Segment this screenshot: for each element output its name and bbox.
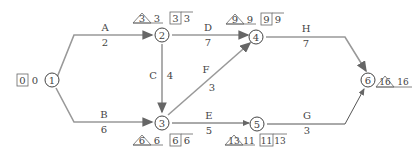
node-4-box1: 9 [263, 14, 269, 25]
node-5-tri: 13 [228, 136, 240, 146]
node-3-box1: 6 [172, 135, 178, 146]
activity-H-arrow [266, 37, 366, 71]
node-1-est: 0 [19, 75, 25, 86]
node-2-box1: 3 [172, 13, 178, 24]
activity-E-name: E [205, 110, 212, 121]
node-2: 2 3 3 3 3 [133, 12, 193, 42]
activity-D-duration: 7 [205, 37, 211, 48]
activity-F-duration: 3 [209, 82, 215, 93]
node-4: 4 9 9 9 9 [226, 13, 284, 44]
activity-B-duration: 6 [101, 124, 107, 135]
node-1: 1 0 0 [17, 73, 59, 87]
activity-A-name: A [100, 22, 109, 33]
node-3-label: 3 [159, 118, 165, 129]
activity-H-name: H [302, 23, 311, 34]
node-3: 3 6 6 6 6 [133, 116, 193, 146]
network-diagram: A 2 B 6 C 4 D 7 F 3 E 5 G 3 H 7 1 0 0 2 … [0, 0, 420, 155]
activity-D-name: D [204, 22, 212, 33]
node-4-tri-val: 9 [247, 14, 253, 25]
node-2-tri-val: 3 [154, 13, 160, 24]
node-4-tri: 9 [232, 14, 238, 25]
activity-G-arrow [267, 89, 364, 124]
node-5: 5 13 11 11 13 [225, 117, 287, 146]
activity-H-duration: 7 [303, 38, 309, 49]
activity-E-duration: 5 [206, 125, 212, 136]
node-5-box1: 11 [261, 136, 272, 146]
activity-B-name: B [100, 109, 107, 120]
node-3-tri: 6 [139, 135, 145, 146]
activity-A-duration: 2 [102, 37, 108, 48]
node-3-tri-val: 6 [154, 135, 160, 146]
node-5-label: 5 [254, 119, 260, 130]
node-1-label: 1 [49, 75, 55, 86]
node-5-box2: 13 [274, 136, 286, 146]
node-6: 6 16 16 [361, 73, 412, 87]
node-4-box2: 9 [275, 14, 281, 25]
node-5-tri-val: 11 [243, 136, 254, 146]
node-6-tri-val: 16 [397, 77, 409, 87]
node-6-label: 6 [365, 75, 371, 86]
activity-C-name: C [149, 70, 157, 81]
node-2-box2: 3 [184, 13, 190, 24]
node-4-label: 4 [253, 32, 259, 43]
node-1-lst: 0 [32, 75, 38, 86]
node-6-tri: 16 [379, 77, 391, 87]
activity-F-arrow [168, 43, 250, 115]
node-2-label: 2 [159, 30, 165, 41]
activity-G-name: G [303, 110, 311, 121]
node-3-box2: 6 [184, 135, 190, 146]
activity-C-duration: 4 [167, 70, 173, 81]
activity-F-name: F [203, 64, 210, 75]
node-2-tri: 3 [139, 13, 145, 24]
activity-G-duration: 3 [304, 125, 310, 136]
